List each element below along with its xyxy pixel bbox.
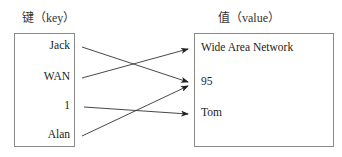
mapping-arrows — [0, 0, 342, 157]
arrow-wan-to-wide-area-network — [82, 49, 188, 78]
arrow-jack-to-95 — [82, 47, 188, 82]
arrow-alan-to-95 — [82, 86, 188, 136]
